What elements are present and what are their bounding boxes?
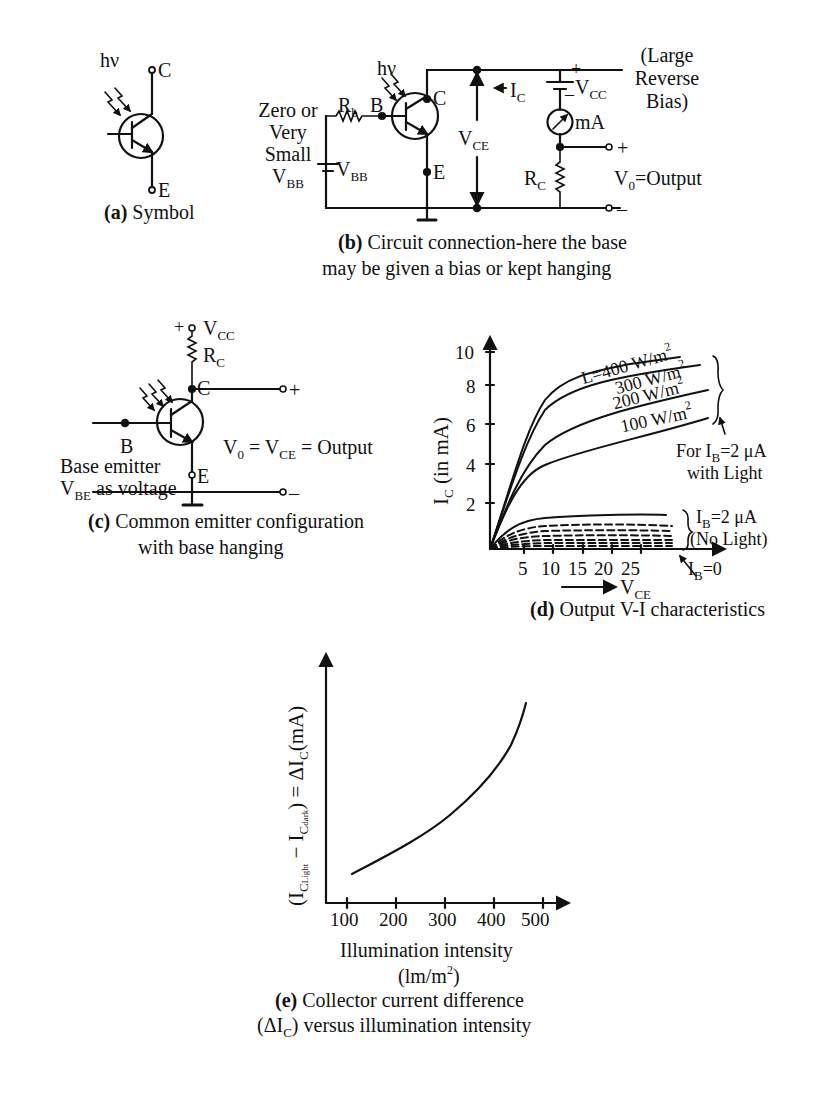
collector-label-c: C — [197, 378, 210, 398]
figure-caption-clipped — [0, 1080, 822, 1094]
caption-a-text: Symbol — [127, 201, 194, 223]
vce-label-b: VCE — [458, 128, 489, 152]
e-xlabel-line-1: Illumination intensity — [340, 940, 513, 960]
caption-c-line-1: (c) Common emitter configuration — [88, 511, 364, 531]
chart-e-curve — [352, 703, 526, 874]
d-xtick-10: 10 — [541, 559, 560, 578]
caption-c-line-2: with base hanging — [138, 537, 284, 557]
photon-label-a: hν — [100, 50, 119, 70]
vbb-note-line-2: Very — [254, 122, 322, 142]
panel-a-transistor-symbol — [105, 67, 163, 193]
rb-main: R — [338, 94, 351, 116]
rc-label-c: RC — [203, 345, 225, 369]
base-label-b: B — [370, 95, 383, 115]
output-label-b: V0=Output — [614, 168, 702, 192]
out-plus-b: + — [617, 138, 628, 158]
d-ib0-note: IB=0 — [688, 560, 722, 582]
emitter-label-c: E — [197, 466, 209, 486]
caption-d: (d) Output V-I characteristics — [530, 599, 765, 619]
d-ytick-6: 6 — [466, 416, 476, 435]
be-note-line-2: VBE as voltage — [60, 478, 177, 502]
base-label-c: B — [120, 436, 133, 456]
e-xtick-400: 400 — [477, 910, 506, 929]
photon-label-b: hν — [377, 58, 396, 78]
caption-b-line-2: may be given a bias or kept hanging — [322, 258, 611, 278]
caption-a-letter: (a) — [104, 201, 127, 223]
d-ytick-10: 10 — [455, 343, 474, 362]
bias-note-line-2: Reverse — [622, 68, 712, 88]
emitter-label-b: E — [433, 162, 445, 182]
vbb-note-line-1: Zero or — [254, 100, 322, 120]
vbb-note: Zero or Very Small VBB — [254, 100, 322, 190]
d-ytick-2: 2 — [466, 495, 476, 514]
rc-label-b: RC — [524, 168, 546, 192]
caption-b-line-1: (b) Circuit connection-here the base — [338, 232, 627, 252]
caption-e-line-2: (ΔIC) versus illumination intensity — [257, 1015, 531, 1039]
d-xtick-15: 15 — [568, 559, 587, 578]
output-label-c: V0 = VCE = Output — [223, 437, 373, 461]
d-dark-note-line-1: IB=2 μA — [696, 508, 757, 530]
d-ylabel: IC (in mA) — [431, 417, 455, 505]
chart-d-dark-curves — [490, 515, 672, 549]
vcc-label-b: VCC — [575, 77, 607, 101]
vcc-plus-c: + — [174, 318, 184, 336]
bias-note: (Large Reverse Bias) — [622, 45, 712, 111]
out-minus-b: – — [617, 199, 627, 219]
d-ytick-8: 8 — [466, 377, 476, 396]
e-ylabel: (ICLight − ICdark) = ΔIC(mA) — [286, 706, 310, 906]
be-note-line-1: Base emitter — [60, 456, 161, 476]
e-xtick-100: 100 — [330, 910, 359, 929]
d-xtick-20: 20 — [594, 559, 613, 578]
caption-e-line-1: (e) Collector current difference — [275, 990, 524, 1010]
emitter-label-a: E — [158, 180, 170, 200]
d-light-note-line-1: For IB=2 μA — [676, 442, 766, 464]
vcc-label-c: VCC — [203, 318, 235, 342]
ic-label-b: IC — [510, 80, 525, 104]
rb-label: Rb — [338, 95, 358, 119]
e-xtick-500: 500 — [521, 910, 550, 929]
bias-note-line-3: Bias) — [622, 91, 712, 111]
e-xlabel-line-2: (lm/m2) — [398, 964, 460, 986]
vcc-minus-b: – — [565, 85, 574, 103]
collector-label-b: C — [433, 88, 446, 108]
d-xtick-5: 5 — [518, 559, 528, 578]
vbb-label: VBB — [336, 159, 368, 183]
d-light-note-line-2: with Light — [687, 464, 763, 482]
chart-e-axes — [326, 655, 568, 908]
d-ytick-4: 4 — [466, 456, 476, 475]
out-plus-c: + — [289, 380, 300, 400]
meter-label: mA — [575, 112, 605, 132]
collector-label-a: C — [158, 60, 171, 80]
e-xtick-300: 300 — [428, 910, 457, 929]
d-dark-note-line-2: (No Light) — [690, 530, 767, 548]
bias-note-line-1: (Large — [622, 45, 712, 65]
vbb-note-line-3: Small — [254, 144, 322, 164]
e-xtick-200: 200 — [379, 910, 408, 929]
caption-a: (a) Symbol — [104, 202, 195, 222]
out-minus-c: – — [289, 483, 299, 503]
vbb-note-line-4: VBB — [254, 166, 322, 190]
rb-sub: b — [351, 105, 358, 120]
